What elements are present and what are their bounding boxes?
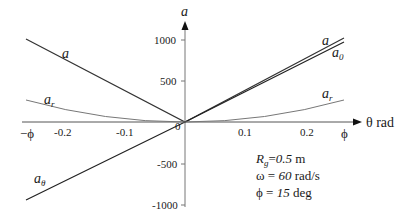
x-tick-02: 0.2 bbox=[300, 126, 314, 138]
label-a-right: a bbox=[322, 33, 329, 48]
y-tick-label-neg500: -500 bbox=[157, 158, 178, 170]
label-a-left: a bbox=[62, 46, 69, 61]
x-axis-arrow-icon bbox=[353, 119, 362, 126]
label-atheta-left: aθ bbox=[34, 171, 46, 188]
param-omega: ω = 60 rad/s bbox=[256, 168, 320, 183]
x-tick-01: 0.1 bbox=[238, 126, 252, 138]
acceleration-chart: a θ rad 0 −ϕ -0.2 -0.1 0.1 0.2 ϕ 1000 50… bbox=[0, 0, 412, 223]
y-axis-label: a bbox=[181, 4, 188, 19]
y-tick-label-neg1000: -1000 bbox=[152, 199, 178, 211]
y-tick-label-500: 500 bbox=[160, 75, 177, 87]
y-tick-label-1000: 1000 bbox=[154, 34, 177, 46]
x-tick-phi: ϕ bbox=[341, 126, 348, 141]
label-atheta-right: a0 bbox=[332, 45, 344, 62]
param-rg: Rg=0.5 m bbox=[255, 151, 305, 168]
x-tick-neg-phi: −ϕ bbox=[20, 126, 34, 141]
param-phi: ϕ = 15 deg bbox=[256, 185, 312, 200]
origin-label: 0 bbox=[175, 120, 181, 132]
parameters-block: Rg=0.5 m ω = 60 rad/s ϕ = 15 deg bbox=[255, 151, 320, 200]
x-tick-neg02: -0.2 bbox=[54, 126, 71, 138]
label-ar-left: ar bbox=[44, 92, 55, 109]
x-tick-neg01: -0.1 bbox=[116, 126, 133, 138]
label-ar-right: ar bbox=[322, 86, 333, 103]
x-axis-label: θ rad bbox=[366, 115, 394, 130]
y-axis-arrow-icon bbox=[182, 21, 189, 30]
